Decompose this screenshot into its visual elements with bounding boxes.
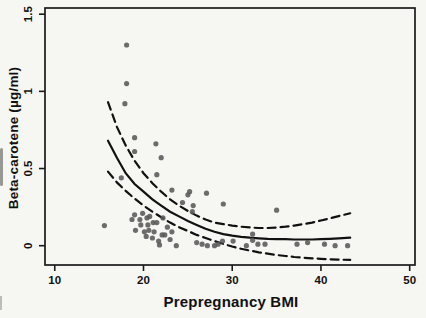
scan-artifact [0,296,2,310]
data-point [119,175,124,180]
chart-canvas: 102030405000.511.5 [0,0,426,318]
data-point [124,42,129,47]
x-tick-label: 30 [226,274,239,286]
data-point [165,225,170,230]
data-point [145,222,150,227]
data-point [162,232,167,237]
data-point [250,238,255,243]
data-point [138,222,143,227]
data-point [250,232,255,237]
data-point [194,240,199,245]
data-point [129,217,134,222]
data-point [244,243,249,248]
data-point [132,149,137,154]
data-point [294,242,299,247]
data-point [231,239,236,244]
data-point [154,172,159,177]
data-point [322,242,327,247]
data-point [102,223,107,228]
y-axis-title-text: Beta-carotene (µg/ml) [6,67,21,210]
data-point [137,217,142,222]
scan-artifact [0,148,3,186]
y-axis: 00.511.5 [22,6,45,249]
data-point [147,214,152,219]
data-point [204,191,209,196]
x-tick-label: 10 [48,274,61,286]
x-axis: 1020304050 [48,265,416,286]
data-point [220,239,225,244]
data-point [221,201,226,206]
data-point [180,200,185,205]
data-point [168,237,173,242]
lower-confidence-band [108,172,350,260]
data-points [102,42,350,248]
data-point [160,215,165,220]
data-point [146,228,151,233]
data-point [274,208,279,213]
data-point [133,228,138,233]
scatter-plot-figure: 102030405000.511.5 Beta-carotene (µg/ml)… [0,0,426,318]
data-point [154,220,159,225]
data-point [157,242,162,247]
data-point [215,242,220,247]
data-point [255,242,260,247]
data-point [132,135,137,140]
data-point [140,211,145,216]
data-point [262,242,267,247]
data-point [205,243,210,248]
plot-box [45,8,415,265]
data-point [333,243,338,248]
data-point [305,240,310,245]
data-point [169,188,174,193]
x-axis-title-text: Prepregnancy BMI [164,293,299,310]
data-point [174,243,179,248]
data-point [153,141,158,146]
data-point [159,155,164,160]
x-tick-label: 20 [137,274,150,286]
data-point [122,101,127,106]
data-point [185,192,190,197]
data-point [152,229,157,234]
data-point [169,229,174,234]
y-tick-label: 1 [22,88,34,95]
data-point [345,243,350,248]
x-tick-label: 50 [403,274,416,286]
data-point [132,212,137,217]
data-point [124,81,129,86]
y-tick-label: 0.5 [22,160,34,177]
upper-confidence-band [108,102,350,228]
data-point [190,209,195,214]
data-point [200,242,205,247]
data-point [144,234,149,239]
x-tick-label: 40 [315,274,328,286]
data-point [150,235,155,240]
y-tick-label: 1.5 [22,6,34,23]
y-tick-label: 0 [22,243,34,249]
data-point [191,203,196,208]
